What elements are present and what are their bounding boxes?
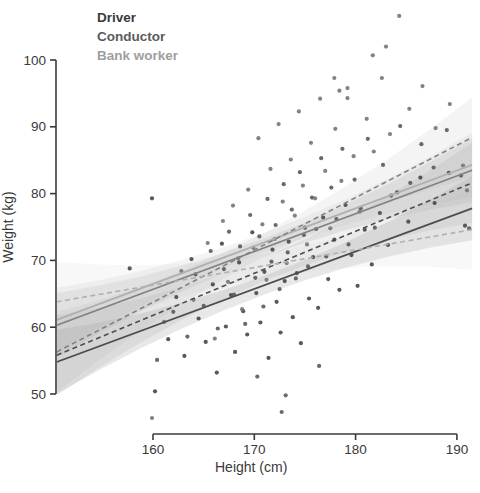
data-point [345, 86, 349, 90]
data-point [371, 53, 375, 57]
data-point [206, 241, 210, 245]
data-point [233, 350, 237, 354]
x-tick-label: 180 [344, 442, 367, 457]
data-point [220, 242, 224, 246]
data-point [237, 260, 241, 264]
data-point [388, 132, 392, 136]
data-point [294, 276, 298, 280]
data-point [246, 188, 250, 192]
data-point [231, 204, 235, 208]
data-point [189, 257, 193, 261]
data-point [372, 149, 376, 153]
x-axis-title: Height (cm) [215, 459, 287, 475]
data-point [309, 141, 313, 145]
data-point [277, 122, 281, 126]
data-point [197, 316, 201, 320]
data-point [346, 242, 350, 246]
data-point [397, 14, 401, 18]
data-point [340, 147, 344, 151]
data-point [253, 276, 257, 280]
data-point [155, 358, 159, 362]
data-point [419, 142, 423, 146]
data-point [337, 89, 341, 93]
data-point [326, 277, 330, 281]
data-point [418, 176, 422, 180]
data-point [153, 389, 157, 393]
data-point [432, 165, 436, 169]
data-point [278, 287, 282, 291]
data-point [353, 178, 357, 182]
data-point [366, 137, 370, 141]
data-point [407, 107, 411, 111]
data-point [287, 240, 291, 244]
data-point [328, 226, 332, 230]
data-point [257, 234, 261, 238]
data-point [221, 219, 225, 223]
data-point [286, 250, 290, 254]
chart-canvas: 1601701801905060708090100 [0, 0, 480, 493]
data-point [352, 154, 356, 158]
data-point [238, 244, 242, 248]
data-point [150, 416, 154, 420]
data-point [185, 335, 189, 339]
legend-item-driver: Driver [97, 8, 178, 27]
data-point [261, 304, 265, 308]
y-tick-label: 90 [31, 119, 46, 134]
data-point [316, 306, 320, 310]
legend-item-bank-worker: Bank worker [97, 46, 178, 65]
data-point [398, 124, 402, 128]
data-point [265, 197, 269, 201]
data-point [339, 179, 343, 183]
data-point [433, 201, 437, 205]
data-point [284, 393, 288, 397]
data-point [313, 196, 317, 200]
y-tick-label: 100 [23, 53, 46, 68]
data-point [337, 288, 341, 292]
data-point [260, 222, 264, 226]
data-point [305, 242, 309, 246]
data-point [370, 262, 374, 266]
data-point [333, 127, 337, 131]
data-point [406, 220, 410, 224]
data-point [213, 337, 217, 341]
data-point [332, 76, 336, 80]
data-point [373, 226, 377, 230]
data-point [270, 248, 274, 252]
data-point [448, 102, 452, 106]
data-point [211, 282, 215, 286]
data-point [182, 354, 186, 358]
legend-item-conductor: Conductor [97, 27, 178, 46]
legend: Driver Conductor Bank worker [97, 8, 178, 65]
data-point [250, 230, 254, 234]
data-point [255, 375, 259, 379]
data-point [329, 186, 333, 190]
data-point [465, 188, 469, 192]
data-point [204, 340, 208, 344]
x-tick-label: 160 [142, 442, 165, 457]
data-point [268, 167, 272, 171]
ci-ribbons [57, 97, 472, 395]
data-point [243, 322, 247, 326]
data-point [307, 296, 311, 300]
data-point [240, 307, 244, 311]
data-point [209, 249, 213, 253]
data-point [222, 267, 226, 271]
data-point [216, 326, 220, 330]
data-point [279, 330, 283, 334]
data-point [281, 200, 285, 204]
data-point [166, 337, 170, 341]
data-point [445, 128, 449, 132]
data-point [254, 291, 258, 295]
data-point [293, 214, 297, 218]
data-point [171, 310, 175, 314]
data-point [128, 266, 132, 270]
data-point [215, 371, 219, 375]
y-tick-label: 50 [31, 387, 46, 402]
data-point [245, 332, 249, 336]
x-tick-label: 170 [243, 442, 266, 457]
data-point [150, 196, 154, 200]
data-point [463, 224, 467, 228]
data-point [264, 278, 268, 282]
data-point [174, 295, 178, 299]
data-point [258, 320, 262, 324]
